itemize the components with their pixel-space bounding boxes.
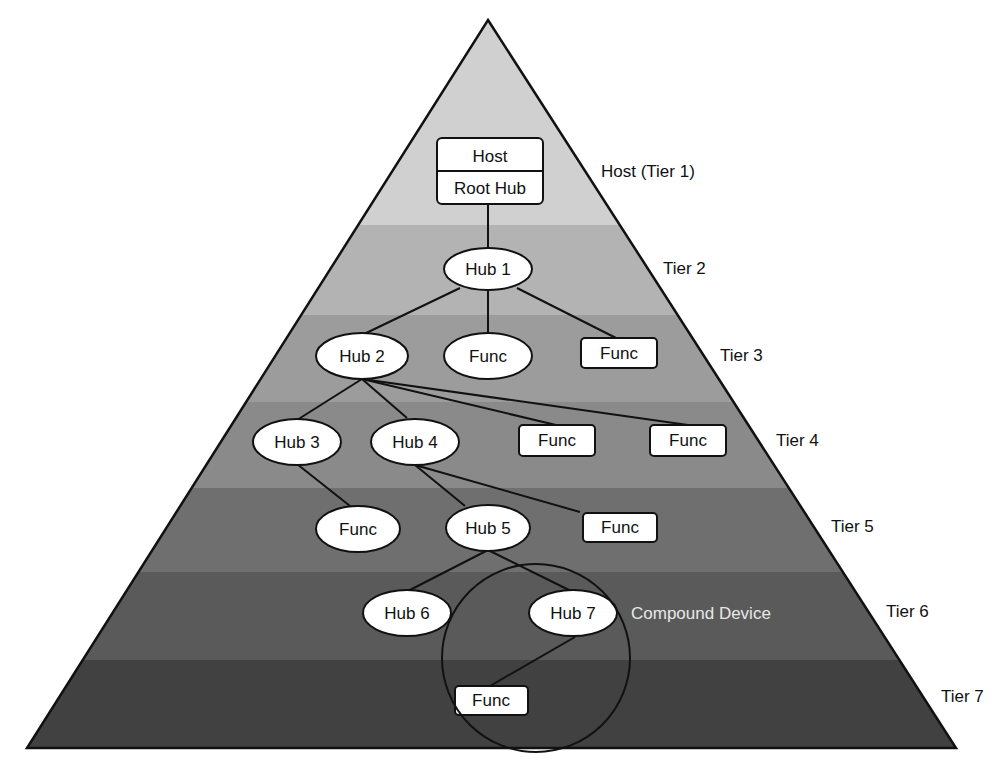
- node-label: Hub 3: [274, 433, 319, 452]
- node-func5b: Func: [583, 513, 657, 542]
- node-label: Func: [339, 520, 377, 539]
- node-hub3: Hub 3: [253, 419, 341, 465]
- tier-label-5: Tier 5: [831, 517, 874, 536]
- node-label: Func: [600, 344, 638, 363]
- tier-label-3: Tier 3: [720, 346, 763, 365]
- node-func3a: Func: [444, 333, 532, 379]
- node-hub1: Hub 1: [444, 248, 532, 290]
- node-label: Hub 2: [339, 347, 384, 366]
- node-hub7: Hub 7: [529, 590, 617, 636]
- node-func5a: Func: [316, 506, 400, 552]
- node-label: Func: [472, 691, 510, 710]
- root-hub-label: Root Hub: [454, 179, 526, 198]
- tier-band-6: [0, 572, 1008, 660]
- node-hub5: Hub 5: [446, 505, 530, 551]
- tier-label-1: Host (Tier 1): [601, 162, 695, 181]
- tier-band-4: [0, 402, 1008, 488]
- node-label: Func: [669, 431, 707, 450]
- node-label: Func: [601, 518, 639, 537]
- host-label: Host: [473, 147, 508, 166]
- tier-label-2: Tier 2: [663, 259, 706, 278]
- node-label: Func: [469, 347, 507, 366]
- host-root-hub-node: Host Root Hub: [437, 138, 543, 204]
- node-func7: Func: [455, 686, 528, 715]
- node-func3b: Func: [581, 338, 657, 368]
- node-hub6: Hub 6: [363, 590, 451, 636]
- node-func4b: Func: [650, 425, 726, 456]
- compound-device-label: Compound Device: [631, 604, 771, 623]
- tier-label-6: Tier 6: [886, 602, 929, 621]
- tier-label-4: Tier 4: [776, 431, 819, 450]
- node-label: Hub 1: [465, 260, 510, 279]
- node-label: Hub 6: [384, 604, 429, 623]
- node-label: Hub 5: [465, 519, 510, 538]
- node-hub2: Hub 2: [316, 333, 408, 379]
- node-func4a: Func: [519, 425, 595, 456]
- node-label: Func: [538, 431, 576, 450]
- node-hub4: Hub 4: [371, 419, 459, 465]
- usb-topology-diagram: Host Root Hub Hub 1 Hub 2 Func Func Hub …: [0, 0, 1008, 767]
- node-label: Hub 7: [550, 604, 595, 623]
- node-label: Hub 4: [392, 433, 437, 452]
- tier-label-7: Tier 7: [941, 687, 984, 706]
